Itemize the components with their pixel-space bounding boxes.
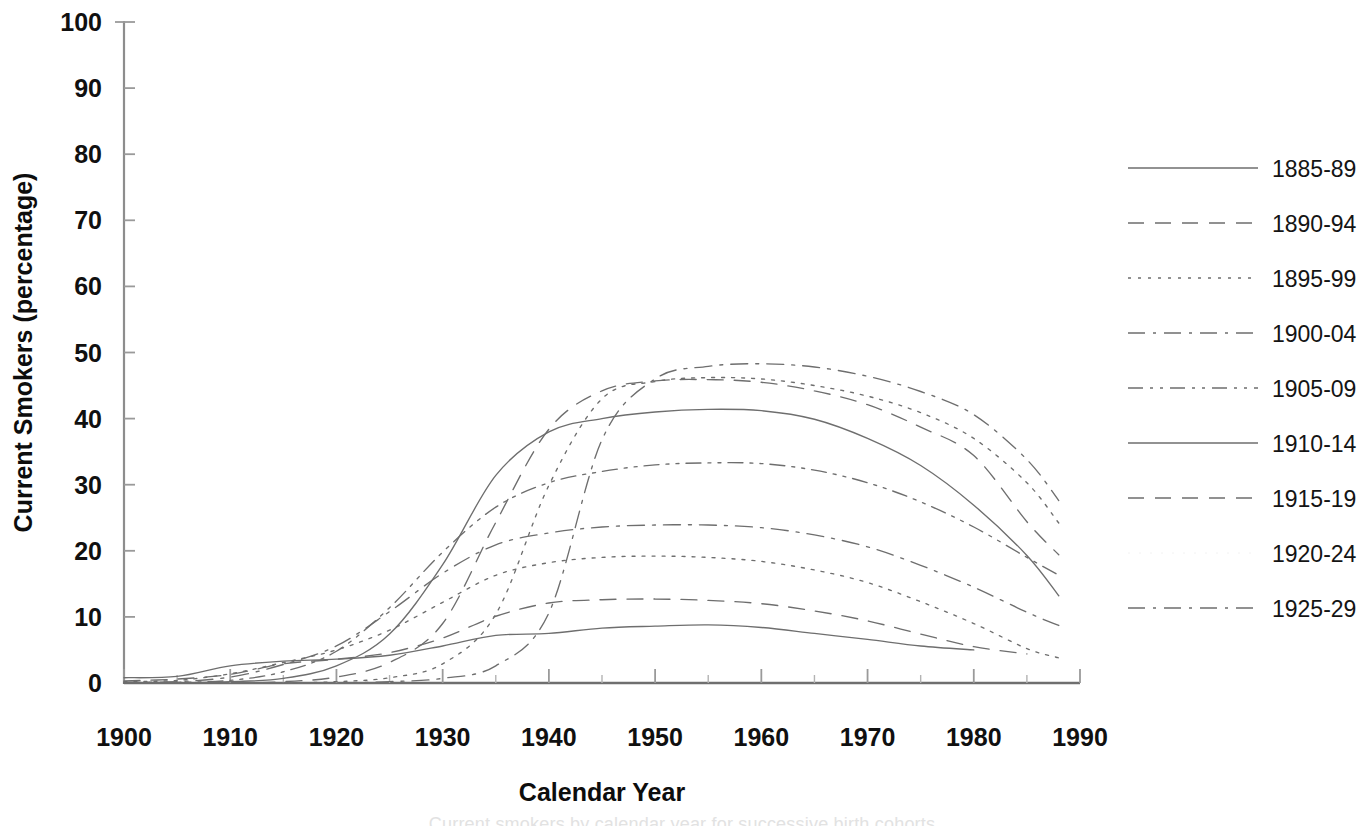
y-tick-label: 80 [74, 140, 102, 168]
legend-item: 1895-99 [1128, 266, 1356, 292]
legend-label: 1895-99 [1272, 266, 1356, 292]
y-axis-title: Current Smokers (percentage) [9, 173, 37, 533]
y-tick-label: 60 [74, 272, 102, 300]
series-line-1905-09 [124, 463, 1059, 683]
x-tick-label: 1900 [96, 723, 152, 751]
axis-labels-layer: 0102030405060708090100190019101920193019… [9, 8, 1108, 806]
series-line-1910-14 [124, 409, 1059, 683]
x-tick-label: 1960 [734, 723, 790, 751]
x-tick-label: 1920 [309, 723, 365, 751]
x-tick-label: 1930 [415, 723, 471, 751]
y-tick-label: 90 [74, 74, 102, 102]
series-layer [124, 364, 1059, 683]
x-tick-label: 1990 [1052, 723, 1108, 751]
series-line-1900-04 [124, 525, 1059, 683]
y-tick-label: 40 [74, 405, 102, 433]
x-tick-label: 1940 [521, 723, 577, 751]
x-tick-label: 1980 [946, 723, 1002, 751]
x-tick-label: 1950 [627, 723, 683, 751]
axes-layer [115, 22, 1080, 683]
legend-item: 1925-29 [1128, 596, 1356, 622]
legend-label: 1915-19 [1272, 486, 1356, 512]
line-chart: 0102030405060708090100190019101920193019… [0, 0, 1364, 826]
legend-item: 1885-89 [1128, 156, 1356, 182]
y-tick-label: 10 [74, 603, 102, 631]
legend-label: 1900-04 [1272, 321, 1357, 347]
y-tick-label: 100 [60, 8, 102, 36]
legend-label: 1925-29 [1272, 596, 1356, 622]
legend-label: 1905-09 [1272, 376, 1356, 402]
legend-item: 1910-14 [1128, 431, 1357, 457]
y-tick-label: 70 [74, 206, 102, 234]
x-axis-title: Calendar Year [519, 778, 686, 806]
legend-label: 1920-24 [1272, 541, 1357, 567]
legend-label: 1885-89 [1272, 156, 1356, 182]
y-tick-label: 20 [74, 537, 102, 565]
x-tick-label: 1970 [840, 723, 896, 751]
x-tick-label: 1910 [202, 723, 258, 751]
legend-item: 1915-19 [1128, 486, 1356, 512]
y-tick-label: 50 [74, 339, 102, 367]
series-line-1915-19 [124, 379, 1059, 683]
chart-legend: 1885-891890-941895-991900-041905-091910-… [1128, 156, 1357, 622]
y-tick-label: 0 [88, 669, 102, 697]
figure-root: 0102030405060708090100190019101920193019… [0, 0, 1364, 826]
y-tick-label: 30 [74, 471, 102, 499]
figure-caption: Current smokers by calendar year for suc… [0, 814, 1364, 826]
legend-item: 1920-24 [1128, 541, 1357, 567]
legend-label: 1890-94 [1272, 211, 1357, 237]
series-line-1920-24 [124, 377, 1059, 683]
legend-item: 1905-09 [1128, 376, 1356, 402]
legend-item: 1900-04 [1128, 321, 1357, 347]
legend-label: 1910-14 [1272, 431, 1357, 457]
series-line-1890-94 [124, 599, 1027, 681]
legend-item: 1890-94 [1128, 211, 1357, 237]
